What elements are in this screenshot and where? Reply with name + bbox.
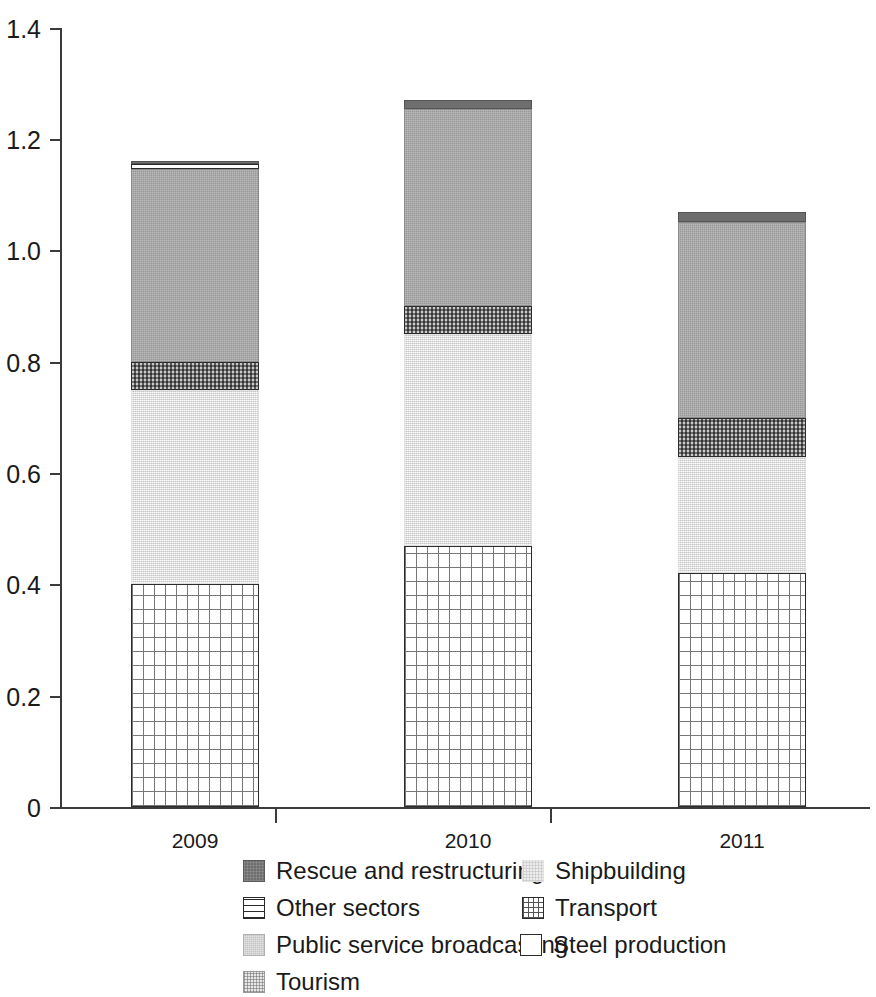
segment-transport-2011 [678, 573, 806, 807]
transport-swatch-icon [522, 897, 544, 919]
bar-group-2010 [404, 100, 532, 807]
y-tick-label: 0.8 [6, 351, 41, 376]
segment-public-service-broadcasting-2011 [678, 222, 806, 418]
public-service-broadcasting-swatch-icon [243, 934, 265, 956]
segment-other-sectors-2010 [404, 306, 532, 334]
y-tick-0.2: 0.2 [50, 696, 60, 698]
y-tick-label: 1.0 [6, 239, 41, 264]
legend-item-shipbuilding[interactable]: Shipbuilding [522, 852, 686, 889]
x-axis-label-2011: 2011 [719, 830, 764, 851]
legend-item-transport[interactable]: Transport [522, 889, 657, 926]
y-tick-label: 0.6 [6, 462, 41, 487]
legend-row: Public service broadcasting Steel produc… [0, 926, 876, 963]
tourism-swatch-icon [243, 971, 265, 993]
x-tick-divider-2 [550, 809, 552, 823]
steel-production-swatch-icon [520, 934, 542, 956]
legend-item-tourism[interactable]: Tourism [243, 963, 360, 997]
segment-public-service-broadcasting-2009 [131, 169, 259, 362]
y-tick-label: 1.4 [6, 17, 41, 42]
y-tick-label: 0.2 [6, 685, 41, 710]
other-sectors-swatch-icon [243, 897, 265, 919]
segment-transport-2009 [131, 584, 259, 807]
legend-row: Rescue and restructuring Shipbuilding [0, 852, 876, 889]
segment-other-sectors-2011 [678, 418, 806, 457]
segment-public-service-broadcasting-2010 [404, 109, 532, 306]
legend-label: Shipbuilding [555, 859, 686, 883]
segment-shipbuilding-2010 [404, 334, 532, 545]
x-axis-label-2009: 2009 [172, 830, 219, 851]
shipbuilding-swatch-icon [522, 860, 544, 882]
stacked-bar-chart: 1.4 1.2 1.0 0.8 0.6 0.4 0.2 0 [0, 0, 876, 997]
y-tick-1.2: 1.2 [50, 139, 60, 141]
x-tick-divider-1 [275, 809, 277, 823]
y-tick-1.4: 1.4 [50, 28, 60, 30]
legend-row: Tourism [0, 963, 876, 997]
legend-label: Tourism [276, 970, 360, 994]
segment-rescue-and-restructuring-2011 [678, 212, 806, 222]
legend-label: Other sectors [276, 896, 420, 920]
plot-area: 1.4 1.2 1.0 0.8 0.6 0.4 0.2 0 [60, 28, 870, 807]
legend-item-rescue-and-restructuring[interactable]: Rescue and restructuring [243, 852, 544, 889]
y-axis-line [60, 28, 62, 807]
segment-transport-2010 [404, 546, 532, 808]
segment-shipbuilding-2011 [678, 457, 806, 574]
y-tick-0: 0 [50, 807, 60, 809]
bar-group-2009 [131, 161, 259, 807]
y-tick-label: 0 [27, 796, 41, 821]
segment-rescue-and-restructuring-2010 [404, 100, 532, 108]
y-tick-0.6: 0.6 [50, 473, 60, 475]
y-tick-1.0: 1.0 [50, 250, 60, 252]
chart-legend: Rescue and restructuring Shipbuilding Ot… [0, 852, 876, 997]
legend-item-other-sectors[interactable]: Other sectors [243, 889, 420, 926]
x-axis-line [60, 807, 870, 809]
segment-other-sectors-2009 [131, 362, 259, 390]
segment-shipbuilding-2009 [131, 390, 259, 585]
y-tick-0.4: 0.4 [50, 584, 60, 586]
y-tick-label: 0.4 [6, 573, 41, 598]
bar-group-2011 [678, 212, 806, 807]
legend-item-steel-production[interactable]: Steel production [520, 926, 726, 963]
legend-label: Steel production [553, 933, 726, 957]
legend-label: Rescue and restructuring [276, 859, 544, 883]
legend-row: Other sectors Transport [0, 889, 876, 926]
x-axis-label-2010: 2010 [445, 830, 492, 851]
y-tick-0.8: 0.8 [50, 362, 60, 364]
y-tick-label: 1.2 [6, 128, 41, 153]
rescue-and-restructuring-swatch-icon [243, 860, 265, 882]
legend-label: Transport [555, 896, 657, 920]
